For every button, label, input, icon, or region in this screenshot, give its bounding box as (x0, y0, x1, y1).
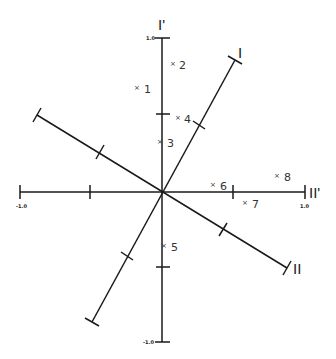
point-marker: × (175, 114, 181, 122)
axis-label-rotated-1: I (238, 44, 242, 61)
axis-label-rotated-2: II (293, 260, 301, 277)
point-2: × 2 (170, 59, 186, 72)
point-label: 8 (284, 171, 291, 184)
axis-vertical (155, 38, 170, 342)
scale-top: 1.0 (146, 35, 155, 41)
point-label: 4 (184, 113, 191, 126)
point-marker: × (161, 242, 167, 250)
point-3: × 3 (157, 137, 174, 150)
point-8: × 8 (274, 171, 291, 184)
axis-label-horizontal: II' (309, 184, 320, 201)
point-6: × 6 (210, 180, 227, 193)
scale-left: -1.0 (16, 203, 27, 209)
point-marker: × (274, 172, 280, 180)
scale-bottom: -1.0 (143, 339, 154, 345)
point-label: 3 (167, 137, 174, 150)
point-5: × 5 (161, 241, 178, 254)
point-marker: × (242, 199, 248, 207)
axis-rotated-1 (85, 56, 242, 326)
point-marker: × (210, 181, 216, 189)
point-label: 2 (179, 59, 186, 72)
scale-right: 1.0 (300, 203, 309, 209)
axis-label-vertical: I' (158, 16, 165, 33)
point-label: 6 (220, 180, 227, 193)
point-label: 5 (171, 241, 178, 254)
point-4: × 4 (175, 113, 191, 126)
point-1: × 1 (134, 83, 151, 96)
point-marker: × (134, 84, 140, 92)
point-label: 7 (252, 198, 259, 211)
point-marker: × (170, 60, 176, 68)
point-7: × 7 (242, 198, 259, 211)
point-label: 1 (144, 83, 151, 96)
point-marker: × (157, 138, 163, 146)
factor-plot: I' II' I II 1.0 -1.0 -1.0 1.0 × 1 × 2 × … (0, 0, 336, 359)
